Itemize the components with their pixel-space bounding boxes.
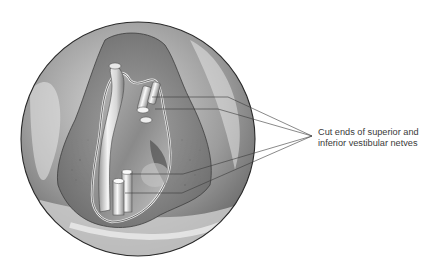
callout-label: Cut ends of superior and inferior vestib… [318, 127, 419, 149]
callout-label-line2: inferior vestibular netves [318, 138, 419, 149]
magnified-view-circle [0, 0, 280, 270]
callout-label-line1: Cut ends of superior and [318, 127, 419, 138]
